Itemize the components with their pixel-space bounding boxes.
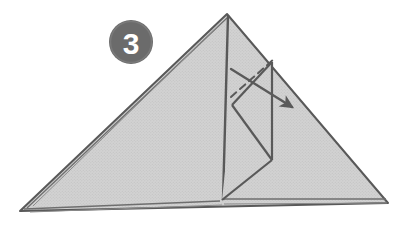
origami-figure: 3: [0, 0, 410, 229]
step-number-label: 3: [123, 27, 140, 60]
origami-step-diagram: 3: [0, 0, 410, 229]
step-number-badge: 3: [109, 20, 153, 64]
paper-body: [20, 14, 388, 212]
main-triangle: [20, 14, 388, 211]
